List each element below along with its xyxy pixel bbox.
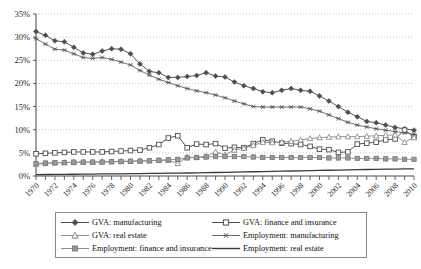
data-point-marker <box>242 102 247 106</box>
data-point-marker <box>128 148 133 153</box>
data-point-marker <box>62 160 66 164</box>
data-point-marker <box>355 114 360 119</box>
legend-marker-open-square-icon <box>211 217 241 228</box>
data-point-marker <box>374 140 379 145</box>
data-point-marker <box>109 159 113 163</box>
data-point-marker <box>91 160 95 164</box>
data-point-marker <box>232 80 237 85</box>
data-point-marker <box>364 141 369 146</box>
data-point-marker <box>213 141 218 146</box>
data-point-marker <box>71 45 76 50</box>
chart-figure: 0%5%10%15%20%25%30%35%197019721974197619… <box>0 0 421 269</box>
x-axis-tick-label: 2006 <box>363 181 381 199</box>
data-point-marker <box>34 29 39 34</box>
data-point-marker <box>223 96 228 100</box>
data-point-marker <box>270 155 274 159</box>
x-axis-tick-label: 1970 <box>23 181 41 199</box>
data-point-marker <box>138 159 142 163</box>
data-point-marker <box>279 88 284 93</box>
legend-row: GVA: manufacturing GVA: finance and insu… <box>60 216 362 229</box>
data-point-marker <box>251 105 256 109</box>
data-point-marker <box>156 70 161 75</box>
chart-legend: GVA: manufacturing GVA: finance and insu… <box>55 212 367 258</box>
data-point-marker <box>166 81 171 85</box>
data-point-marker <box>138 68 143 72</box>
data-point-marker <box>364 125 369 129</box>
data-point-marker <box>166 75 171 80</box>
data-point-marker <box>34 161 38 165</box>
x-axis-tick-label: 1986 <box>174 181 192 199</box>
data-point-marker <box>270 90 275 95</box>
legend-row: GVA: real estate Employment: manufacturi… <box>60 229 362 242</box>
data-point-marker <box>393 157 397 161</box>
data-point-marker <box>62 39 67 44</box>
data-point-marker <box>128 63 133 67</box>
data-point-marker <box>166 136 171 141</box>
data-point-marker <box>100 160 104 164</box>
data-point-marker <box>402 157 406 161</box>
data-point-marker <box>336 150 341 155</box>
data-point-marker <box>62 48 67 52</box>
data-point-marker <box>223 146 228 151</box>
data-point-marker <box>261 155 265 159</box>
data-point-marker <box>241 83 246 88</box>
data-point-marker <box>72 150 77 155</box>
data-point-marker <box>90 52 95 57</box>
data-point-marker <box>185 74 190 79</box>
legend-item-gva-real-estate: GVA: real estate <box>60 230 211 241</box>
legend-item-label: Employment: finance and insurance <box>92 244 212 253</box>
data-point-marker <box>52 38 57 43</box>
data-point-marker <box>119 149 124 154</box>
x-axis-tick-label: 1996 <box>269 181 287 199</box>
data-point-marker <box>308 144 313 149</box>
data-point-marker <box>317 155 321 159</box>
data-point-marker <box>298 142 303 147</box>
data-point-marker <box>308 89 313 94</box>
x-axis-tick-label: 1980 <box>118 181 136 199</box>
legend-marker-asterisk-icon <box>211 230 241 241</box>
data-point-marker <box>53 151 58 156</box>
y-axis-tick-label: 5% <box>19 148 30 158</box>
line-chart-svg: 0%5%10%15%20%25%30%35%197019721974197619… <box>0 0 421 215</box>
y-axis-tick-label: 20% <box>14 78 30 88</box>
data-point-marker <box>345 120 350 124</box>
plot-area: 0%5%10%15%20%25%30%35%197019721974197619… <box>0 0 421 215</box>
data-point-marker <box>138 148 143 153</box>
data-point-marker <box>280 155 284 159</box>
data-point-marker <box>279 105 284 109</box>
data-point-marker <box>194 73 199 78</box>
legend-item-label: Employment: manufacturing <box>243 231 339 240</box>
data-point-marker <box>109 46 114 51</box>
data-point-marker <box>289 105 294 109</box>
data-point-marker <box>270 105 275 109</box>
data-point-marker <box>232 99 237 103</box>
data-point-marker <box>185 156 189 160</box>
data-point-marker <box>223 154 227 158</box>
data-point-marker <box>374 156 378 160</box>
data-point-marker <box>147 145 152 150</box>
data-point-marker <box>327 156 331 160</box>
data-point-marker <box>383 138 388 143</box>
data-point-marker <box>109 149 114 154</box>
x-axis-tick-label: 1998 <box>288 181 306 199</box>
data-point-marker <box>81 150 86 155</box>
data-point-marker <box>71 52 76 56</box>
data-point-marker <box>204 91 209 95</box>
legend-item-employment-finance-and-insurance: Employment: finance and insurance <box>60 243 211 254</box>
series-4 <box>34 154 416 165</box>
data-point-marker <box>185 145 190 150</box>
data-point-marker <box>81 160 85 164</box>
data-point-marker <box>166 158 170 162</box>
data-point-marker <box>43 42 48 46</box>
data-point-marker <box>346 150 351 155</box>
data-point-marker <box>308 107 313 111</box>
data-point-marker <box>260 105 265 109</box>
data-point-marker <box>119 159 123 163</box>
data-point-marker <box>327 113 332 117</box>
data-point-marker <box>336 156 340 160</box>
data-point-marker <box>194 89 199 93</box>
data-point-marker <box>34 151 39 156</box>
x-axis-tick-label: 2004 <box>345 181 363 199</box>
y-axis-tick-label: 15% <box>14 102 30 112</box>
x-axis-tick-label: 1972 <box>42 181 60 199</box>
